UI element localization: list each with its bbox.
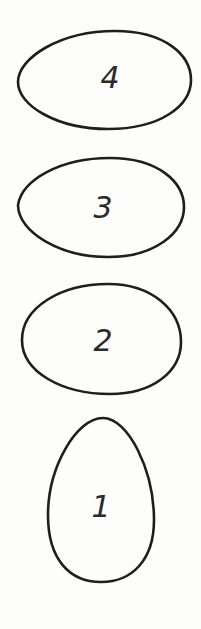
egg-2-label: 2 bbox=[93, 323, 112, 358]
egg-3: 3 bbox=[18, 158, 184, 257]
egg-diagram-canvas: 4 3 2 1 bbox=[0, 0, 201, 629]
egg-2: 2 bbox=[22, 284, 181, 394]
egg-1: 1 bbox=[48, 418, 154, 582]
egg-4-label: 4 bbox=[100, 60, 119, 95]
egg-4: 4 bbox=[18, 31, 191, 129]
egg-1-label: 1 bbox=[91, 489, 110, 524]
egg-3-label-text: 3 bbox=[93, 190, 112, 225]
egg-diagram: 4 3 2 1 bbox=[0, 0, 201, 629]
